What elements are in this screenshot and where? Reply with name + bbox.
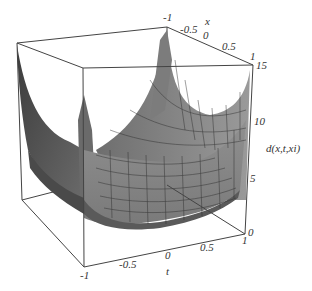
t-axis: -1 -0.5 0 0.5 1 t [80,234,248,281]
z-axis-label: d(x,t,xi) [266,142,301,155]
t-tick-0: 0 [165,249,171,261]
z-tick-0: 0 [248,226,254,238]
t-tick-neg1: -1 [80,269,89,281]
x-tick-neg1: -1 [163,11,172,23]
x-tick-0: 0 [203,29,209,41]
x-tick-05: 0.5 [222,40,236,52]
t-tick-05: 0.5 [200,241,214,253]
x-tick-1: 1 [250,50,256,62]
x-tick-neg05: -0.5 [180,23,198,35]
x-axis: -1 -0.5 0 0.5 1 x [163,11,256,62]
x-axis-label: x [204,15,210,27]
z-tick-10: 10 [254,115,266,127]
surface [17,30,250,229]
t-tick-1: 1 [242,234,248,246]
z-tick-15: 15 [256,59,268,71]
z-axis: 15 10 5 0 d(x,t,xi) [248,59,301,238]
z-tick-5: 5 [250,172,256,184]
surface-plot: -1 -0.5 0 0.5 1 x 15 10 5 0 d(x,t,xi) -1… [0,0,312,291]
t-axis-label: t [166,265,170,277]
t-tick-neg05: -0.5 [119,258,137,270]
